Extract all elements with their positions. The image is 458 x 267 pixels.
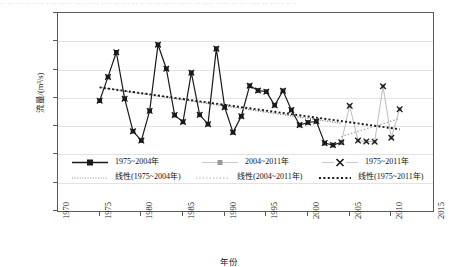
x-tick-mark <box>140 212 141 216</box>
legend-glyph-gray-small-square-marker <box>200 156 240 169</box>
x-tick-mark <box>307 212 308 216</box>
legend: 1975~2004年 2004~2011年 <box>70 156 422 186</box>
legend-row-trendlines: 线性(1975~2004年) 线性(2004~2011年) <box>70 171 422 186</box>
y-axis-title: 流量/(m³/s) <box>33 38 45 148</box>
x-tick-label: 1985 <box>186 179 196 219</box>
series-line-1975-2004 <box>100 45 342 145</box>
x-tick-mark <box>390 212 391 216</box>
trendline-线性(1975~2004年) <box>100 87 342 123</box>
x-tick-mark <box>349 212 350 216</box>
x-tick-mark <box>99 212 100 216</box>
x-tick-label: 1970 <box>61 179 71 219</box>
x-tick-label: 2010 <box>394 179 404 219</box>
x-tick-mark <box>265 212 266 216</box>
legend-label-2004-2011: 2004~2011年 <box>245 158 289 166</box>
legend-label-1975-2004: 1975~2004年 <box>115 158 159 166</box>
legend-glyph-x-marker <box>320 156 360 169</box>
x-tick-label: 1995 <box>269 179 279 219</box>
legend-glyph-line-square-marker <box>70 156 110 169</box>
y-axis-title-text: 流量/(m³/s) <box>35 73 45 114</box>
plot-area: 1975~2004年 2004~2011年 <box>57 12 434 212</box>
x-tick-label: 2000 <box>311 179 321 219</box>
x-tick-mark <box>182 212 183 216</box>
x-tick-label: 2005 <box>353 179 363 219</box>
legend-label-1975-2011: 1975~2011年 <box>365 158 409 166</box>
legend-glyph-dotted-line-light <box>192 171 232 184</box>
x-tick-label: 1980 <box>144 179 154 219</box>
data-point-1975-2011 <box>397 106 403 112</box>
chart-screenshot: ·· ·· ··· ···· ·· ···· ····· ···· ···· ·… <box>0 0 458 267</box>
figure: 流量/(m³/s) 0100200300400500600700 <box>0 9 458 267</box>
page-top-cropped-text: ·· ·· ··· ···· ·· ···· ····· ···· ···· ·… <box>0 0 458 9</box>
legend-row-series: 1975~2004年 2004~2011年 <box>70 156 422 171</box>
series-line-2004-2011 <box>341 86 399 142</box>
x-tick-label: 1990 <box>228 179 238 219</box>
legend-label-trend-1975-2011: 线性(1975~2011年) <box>358 173 423 181</box>
x-tick-label: 2015 <box>436 179 446 219</box>
x-tick-mark <box>224 212 225 216</box>
x-tick-label: 1975 <box>103 179 113 219</box>
x-axis-title: 年份 <box>0 255 458 267</box>
